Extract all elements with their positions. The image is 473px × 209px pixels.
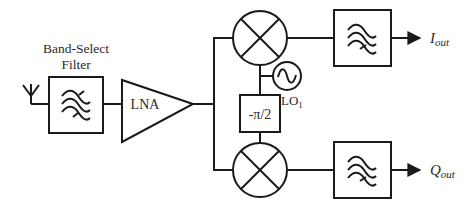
receiver-block-diagram: Band-Select Filter LNA LO1 xyxy=(0,0,473,209)
q-out-label: Qout xyxy=(430,162,456,180)
band-select-label: Band-Select xyxy=(43,41,109,56)
lna-amplifier: LNA xyxy=(122,80,193,142)
splitter-bus xyxy=(214,38,233,170)
phase-shift-label: -π/2 xyxy=(249,107,272,122)
mixer-q xyxy=(233,143,287,197)
local-oscillator xyxy=(273,62,301,90)
lowpass-filter-q xyxy=(334,142,391,198)
phase-shifter: -π/2 xyxy=(240,95,280,132)
lowpass-filter-i xyxy=(334,10,391,66)
band-select-filter xyxy=(49,77,103,133)
lna-label: LNA xyxy=(131,97,161,112)
mixer-i xyxy=(233,11,287,65)
filter-label: Filter xyxy=(61,57,91,72)
antenna-icon xyxy=(23,84,49,104)
lo-label: LO1 xyxy=(281,93,303,110)
i-out-label: Iout xyxy=(429,30,450,48)
